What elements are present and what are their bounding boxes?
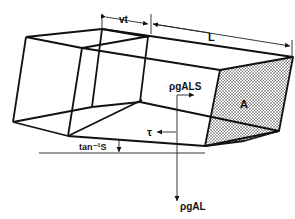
area-label: A — [240, 98, 248, 110]
dimension-l: L — [151, 14, 292, 58]
dimension-vt: vt — [106, 14, 148, 25]
l-label: L — [208, 31, 215, 43]
rho-g-al-label: ρgAL — [180, 201, 206, 212]
tan-inverse-s-label: tan⁻¹S — [79, 142, 107, 152]
tau-label: τ — [147, 126, 152, 138]
force-tau: τ — [147, 126, 176, 138]
slope-angle: tan⁻¹S — [39, 140, 205, 153]
rho-g-als-label: ρgALS — [169, 81, 202, 92]
tilted-prism-diagram: vt L ρgALS τ ρgAL tan⁻¹S A — [0, 0, 295, 219]
vt-label: vt — [119, 14, 129, 25]
force-rho-g-als: ρgALS — [169, 81, 202, 135]
